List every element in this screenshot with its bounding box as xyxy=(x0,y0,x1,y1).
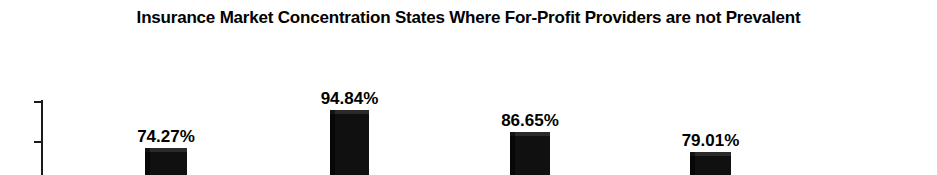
bar-group: 94.84% xyxy=(330,110,369,175)
bar-value-label: 86.65% xyxy=(501,112,559,129)
y-axis-tick-mark xyxy=(34,101,42,103)
bar-group: 79.01% xyxy=(690,152,731,175)
bar-group: 86.65% xyxy=(510,132,550,175)
plot-area: 0% 0% 74.27% 94.84% 86.65% 79.01% xyxy=(0,0,937,175)
bar-chart: Insurance Market Concentration States Wh… xyxy=(0,0,937,175)
bar-value-label: 94.84% xyxy=(321,90,379,107)
y-axis-line xyxy=(41,100,43,175)
bar[interactable] xyxy=(330,110,369,175)
bar-value-label: 79.01% xyxy=(682,132,740,149)
bar[interactable] xyxy=(145,148,187,175)
y-axis-tick-mark xyxy=(34,141,42,143)
bar-group: 74.27% xyxy=(145,148,187,175)
bar-value-label: 74.27% xyxy=(137,128,195,145)
bar[interactable] xyxy=(690,152,731,175)
bar[interactable] xyxy=(510,132,550,175)
